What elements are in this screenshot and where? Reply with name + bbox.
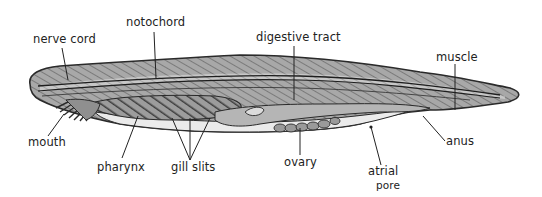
label-mouth: mouth	[28, 137, 66, 149]
label-ovary: ovary	[284, 157, 317, 169]
label-muscle: muscle	[436, 52, 478, 64]
label-nerve-cord: nerve cord	[33, 34, 96, 46]
label-digestive-tract: digestive tract	[256, 32, 341, 44]
label-atrial-pore-line1: atrial	[368, 166, 398, 178]
leader-anus	[423, 116, 445, 141]
atrial-pore-dot	[369, 125, 372, 128]
label-pharynx: pharynx	[97, 162, 145, 174]
label-notochord: notochord	[126, 17, 185, 29]
leader-atrial-pore	[371, 127, 381, 165]
leader-mouth	[48, 114, 64, 136]
label-gill-slits: gill slits	[171, 162, 215, 174]
label-atrial-pore-line2: pore	[376, 180, 400, 191]
label-anus: anus	[446, 136, 474, 148]
lancelet-diagram: nerve cord notochord digestive tract mus…	[0, 0, 542, 197]
